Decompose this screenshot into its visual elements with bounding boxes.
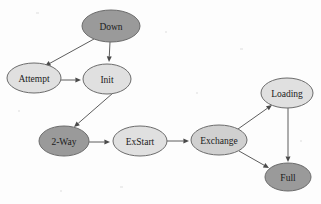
node-label: Loading — [271, 89, 303, 99]
node-label: 2-Way — [51, 137, 76, 147]
arrowhead-icon — [266, 105, 272, 110]
state-node-twoway[interactable]: 2-Way — [39, 126, 89, 156]
arrowhead-icon — [107, 56, 112, 62]
state-diagram-canvas: DownAttemptInit2-WayExStartExchangeLoadi… — [0, 0, 321, 204]
edge-exchange-full — [239, 151, 269, 168]
edge-line — [109, 42, 110, 56]
node-layer: DownAttemptInit2-WayExStartExchangeLoadi… — [7, 10, 313, 191]
edge-twoway-exstart — [89, 140, 110, 145]
state-node-exstart[interactable]: ExStart — [113, 126, 167, 156]
state-node-loading[interactable]: Loading — [261, 78, 313, 108]
node-label: Down — [99, 22, 122, 32]
edge-line — [239, 151, 264, 165]
state-node-down[interactable]: Down — [82, 10, 140, 42]
state-node-exchange[interactable]: Exchange — [191, 125, 247, 155]
arrowhead-icon — [75, 78, 81, 83]
edge-down-init — [107, 42, 112, 62]
edge-down-attempt — [45, 39, 94, 66]
node-label: Init — [100, 75, 114, 85]
state-node-attempt[interactable]: Attempt — [7, 63, 61, 93]
state-node-init[interactable]: Init — [83, 64, 131, 94]
arrowhead-icon — [104, 140, 110, 145]
state-diagram: DownAttemptInit2-WayExStartExchangeLoadi… — [0, 0, 321, 204]
edge-init-twoway — [74, 93, 113, 127]
edge-attempt-init — [61, 78, 81, 83]
edge-exstart-exchange — [167, 139, 189, 144]
node-label: Full — [280, 173, 296, 183]
edge-line — [238, 108, 267, 129]
arrowhead-icon — [286, 156, 291, 162]
edge-line — [50, 39, 94, 63]
state-node-full[interactable]: Full — [265, 163, 311, 191]
edge-exchange-loading — [238, 105, 272, 129]
node-label: ExStart — [126, 137, 155, 147]
edge-line — [78, 93, 113, 123]
arrowhead-icon — [183, 139, 189, 144]
node-label: Exchange — [200, 136, 237, 146]
node-label: Attempt — [18, 74, 49, 84]
edge-loading-full — [286, 108, 291, 162]
scan-artifact-layer — [18, 12, 302, 192]
